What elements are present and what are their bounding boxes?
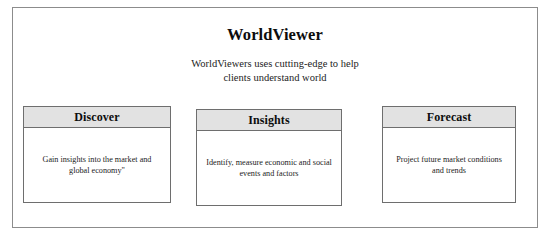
card-forecast[interactable]: Forecast Project future market condition…	[382, 106, 516, 203]
subtitle-line-1: WorldViewers uses cutting-edge to help	[13, 57, 537, 71]
header-block: WorldViewer WorldViewers uses cutting-ed…	[13, 8, 537, 85]
card-insights-header: Insights	[197, 110, 341, 131]
card-discover-body: Gain insights into the market and global…	[24, 128, 170, 202]
card-forecast-description: Project future market conditions and tre…	[392, 154, 506, 176]
card-insights[interactable]: Insights Identify, measure economic and …	[196, 109, 342, 206]
card-discover[interactable]: Discover Gain insights into the market a…	[23, 106, 171, 203]
page-title: WorldViewer	[13, 8, 537, 45]
card-forecast-body: Project future market conditions and tre…	[383, 128, 515, 202]
card-insights-title: Insights	[248, 113, 290, 128]
subtitle-line-2: clients understand world	[13, 71, 537, 85]
slide-frame: WorldViewer WorldViewers uses cutting-ed…	[12, 7, 538, 228]
slide-canvas: WorldViewer WorldViewers uses cutting-ed…	[0, 0, 551, 240]
card-discover-header: Discover	[24, 107, 170, 128]
card-insights-body: Identify, measure economic and social ev…	[197, 131, 341, 205]
card-discover-description: Gain insights into the market and global…	[33, 154, 161, 176]
card-discover-title: Discover	[74, 110, 119, 125]
card-forecast-title: Forecast	[427, 110, 472, 125]
card-insights-description: Identify, measure economic and social ev…	[206, 157, 332, 179]
subtitle: WorldViewers uses cutting-edge to help c…	[13, 45, 537, 85]
card-forecast-header: Forecast	[383, 107, 515, 128]
